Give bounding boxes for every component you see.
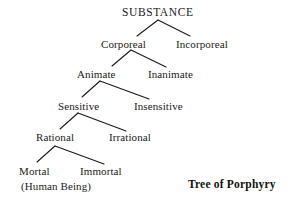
- tree-node-irrational: Irrational: [109, 131, 151, 143]
- edge-corporeal-to-animate: [112, 50, 131, 66]
- annotation-human-being: (Human Being): [21, 180, 91, 192]
- tree-node-rational: Rational: [36, 131, 74, 143]
- edge-substance-to-incorporeal: [158, 20, 190, 36]
- tree-node-sensitive: Sensitive: [58, 100, 99, 112]
- tree-node-substance: SUBSTANCE: [122, 6, 194, 18]
- diagram-caption: Tree of Porphyry: [188, 178, 276, 190]
- edge-animate-to-sensitive: [82, 81, 100, 97]
- tree-node-incorporeal: Incorporeal: [176, 38, 228, 50]
- edge-sensitive-to-rational: [60, 113, 78, 129]
- edge-corporeal-to-inanimate: [131, 50, 166, 67]
- tree-node-immortal: Immortal: [80, 165, 122, 177]
- edge-rational-to-mortal: [37, 146, 55, 162]
- tree-node-mortal: Mortal: [19, 165, 50, 177]
- edge-rational-to-immortal: [55, 146, 104, 164]
- edge-substance-to-corporeal: [137, 20, 158, 36]
- tree-node-animate: Animate: [77, 68, 116, 80]
- tree-node-corporeal: Corporeal: [101, 38, 146, 50]
- tree-node-insensitive: Insensitive: [134, 100, 183, 112]
- edge-sensitive-to-irrational: [78, 113, 126, 131]
- tree-node-inanimate: Inanimate: [148, 68, 193, 80]
- edge-animate-to-insensitive: [100, 81, 149, 99]
- tree-of-porphyry-diagram: SUBSTANCECorporealIncorporealAnimateInan…: [0, 0, 290, 210]
